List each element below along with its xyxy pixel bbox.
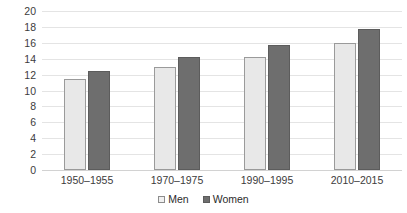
- bar-women-2[interactable]: [268, 45, 290, 170]
- bar-group: [132, 11, 222, 170]
- x-axis-label: 1970–1975: [132, 172, 222, 188]
- bar-chart: 02468101214161820 1950–19551970–19751990…: [0, 0, 407, 213]
- y-axis-tick: 2: [30, 149, 36, 160]
- x-axis: 1950–19551970–19751990–19952010–2015: [42, 172, 402, 188]
- legend-label: Women: [213, 194, 249, 205]
- y-axis-tick: 8: [30, 101, 36, 112]
- y-axis-tick: 16: [24, 38, 36, 49]
- bar-men-0[interactable]: [64, 79, 86, 170]
- legend-swatch-icon: [158, 196, 165, 203]
- axis-baseline: [42, 170, 402, 171]
- y-axis-tick: 4: [30, 133, 36, 144]
- bar-groups: [42, 11, 402, 170]
- bar-group: [42, 11, 132, 170]
- y-axis-tick: 12: [24, 69, 36, 80]
- y-axis-tick: 20: [24, 6, 36, 17]
- y-axis-tick: 14: [24, 53, 36, 64]
- y-axis-tick: 6: [30, 117, 36, 128]
- legend-item-men[interactable]: Men: [158, 194, 188, 205]
- bar-women-0[interactable]: [88, 71, 110, 170]
- legend-label: Men: [168, 194, 188, 205]
- bar-men-2[interactable]: [244, 57, 266, 170]
- y-axis: 02468101214161820: [0, 11, 36, 170]
- chart-legend: MenWomen: [0, 191, 407, 207]
- y-axis-tick: 0: [30, 165, 36, 176]
- x-axis-label: 1990–1995: [222, 172, 312, 188]
- bar-men-1[interactable]: [154, 67, 176, 170]
- bar-women-1[interactable]: [178, 57, 200, 170]
- x-axis-label: 1950–1955: [42, 172, 132, 188]
- bar-group: [312, 11, 402, 170]
- legend-item-women[interactable]: Women: [203, 194, 249, 205]
- legend-swatch-icon: [203, 196, 210, 203]
- bar-men-3[interactable]: [334, 43, 356, 170]
- y-axis-tick: 10: [24, 85, 36, 96]
- y-axis-tick: 18: [24, 22, 36, 33]
- x-axis-label: 2010–2015: [312, 172, 402, 188]
- bar-group: [222, 11, 312, 170]
- plot-area: [42, 11, 402, 170]
- bar-women-3[interactable]: [358, 29, 380, 170]
